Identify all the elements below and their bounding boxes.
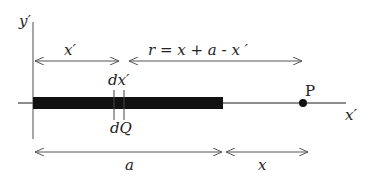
point-p [299,99,307,107]
r-expression-label: r = x + a - x ′ [148,43,248,58]
x-axis-label: x′ [345,108,357,123]
x-label: x [258,158,266,173]
dx-prime-label: dx′ [108,73,129,88]
x-prime-label: x′ [64,43,76,58]
dq-label: dQ [110,121,132,136]
y-axis-label: y′ [19,14,31,29]
charged-rod-diagram: y′ x′ x′ r = x + a - x ′ dx′ dQ P a x [0,0,375,176]
point-p-label: P [305,84,315,99]
diagram-graphics [0,0,375,176]
a-label: a [125,158,134,173]
charged-rod [33,97,223,109]
